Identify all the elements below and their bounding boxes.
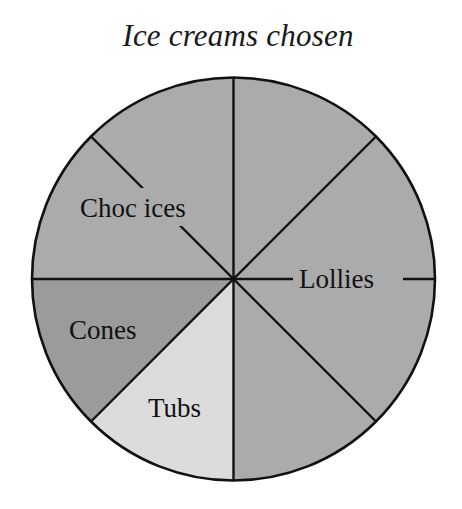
pie-chart: Choc ices Lollies Cones Tubs: [0, 0, 462, 509]
slice-label-tubs: Tubs: [148, 393, 201, 423]
slice-label-lollies: Lollies: [299, 264, 374, 294]
slice-label-choc-ices: Choc ices: [80, 193, 186, 223]
slice-label-cones: Cones: [69, 315, 137, 345]
